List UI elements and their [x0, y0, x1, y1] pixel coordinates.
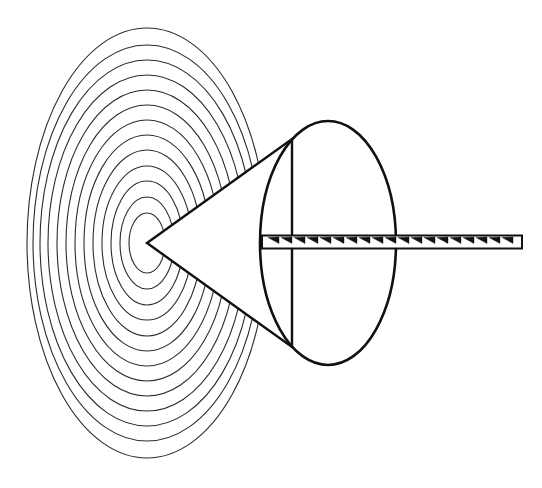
figure-canvas [0, 0, 542, 488]
hatched-axis-rod-group [262, 236, 522, 249]
diagram-svg [0, 0, 542, 488]
